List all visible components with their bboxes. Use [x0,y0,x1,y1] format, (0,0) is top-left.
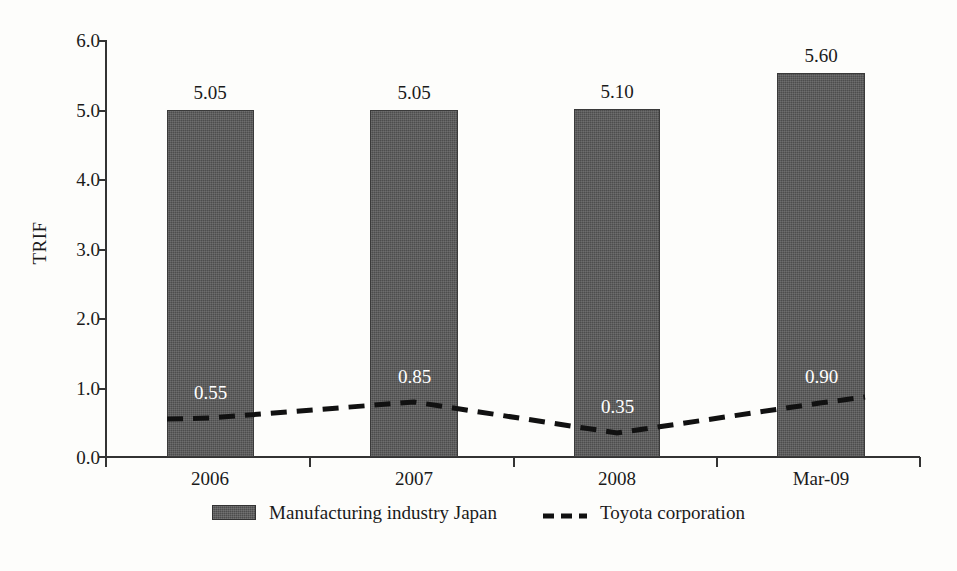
x-tick-mark-2 [513,457,515,467]
bar-2006[interactable] [167,110,254,457]
bar-value-2007: 5.05 [364,82,464,104]
y-tick-label-6: 6.0 [52,31,100,50]
y-tick-label-2: 2.0 [52,309,100,328]
y-tick-label-0: 0.0 [52,448,100,467]
x-tick-mark-start [105,457,107,467]
line-value-2008: 0.35 [570,396,665,418]
bar-2007[interactable] [370,110,458,457]
y-tick-label-1: 1.0 [52,379,100,398]
y-axis-tick-labels: 6.0 5.0 4.0 3.0 2.0 1.0 0.0 [48,0,100,571]
y-tick-label-4: 4.0 [52,170,100,189]
dashed-line-swatch-icon [543,506,587,520]
chart-root: TRIF 6.0 5.0 4.0 3.0 2.0 1.0 0.0 [0,0,957,571]
legend-item-toyota-corporation[interactable]: Toyota corporation [543,503,745,522]
x-tick-label-2006: 2006 [160,468,260,490]
line-value-2006: 0.55 [163,382,258,404]
x-tick-label-2008: 2008 [567,468,667,490]
x-tick-label-mar-09: Mar-09 [771,468,871,490]
legend-item-manufacturing-industry-japan[interactable]: Manufacturing industry Japan [212,503,497,522]
legend-label-manufacturing-industry-japan: Manufacturing industry Japan [269,503,497,522]
bar-mar-09[interactable] [777,73,865,457]
chart-legend: Manufacturing industry Japan Toyota corp… [0,503,957,522]
bar-value-2008: 5.10 [567,81,667,103]
x-tick-mark-3 [716,457,718,467]
y-tick-label-5: 5.0 [52,101,100,120]
bar-value-2006: 5.05 [160,82,260,104]
x-tick-mark-end [919,457,921,467]
y-tick-label-3: 3.0 [52,240,100,259]
plot-area: TRIF 6.0 5.0 4.0 3.0 2.0 1.0 0.0 [0,0,957,571]
x-tick-label-2007: 2007 [364,468,464,490]
bar-value-mar-09: 5.60 [771,45,871,67]
y-axis-line [105,40,107,458]
filled-square-swatch-icon [212,505,256,520]
legend-label-toyota-corporation: Toyota corporation [600,503,745,522]
line-value-2007: 0.85 [367,366,462,388]
line-value-mar-09: 0.90 [774,366,869,388]
x-tick-mark-1 [309,457,311,467]
